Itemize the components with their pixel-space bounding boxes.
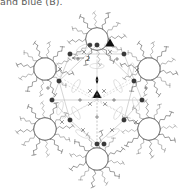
petal-n <box>68 11 127 67</box>
packing-diagram-canvas: 2 <box>0 0 193 195</box>
symmetry-symbol-group <box>92 39 114 99</box>
node-3 <box>122 52 127 57</box>
two-fold-axis-annotation: 2 <box>72 55 90 63</box>
two-fold-axis-label: 2 <box>86 55 90 63</box>
node-12 <box>88 43 92 47</box>
node-4 <box>132 79 137 84</box>
node-2 <box>95 43 100 48</box>
petal-nw <box>10 33 79 104</box>
node-5 <box>122 118 127 123</box>
petal-se <box>110 90 189 168</box>
plus-marker <box>115 57 119 61</box>
x-marker <box>134 120 138 124</box>
x-marker <box>102 89 106 93</box>
plus-marker <box>46 86 50 90</box>
plus-marker <box>76 57 80 61</box>
x-marker <box>88 102 92 106</box>
petal-sw <box>6 90 84 169</box>
petal-ne <box>113 34 184 103</box>
node-1 <box>68 52 73 57</box>
node-7 <box>68 118 73 123</box>
node-9 <box>140 98 145 103</box>
plus-marker <box>144 86 148 90</box>
x-marker <box>88 89 92 93</box>
node-6 <box>95 142 100 147</box>
node-11 <box>102 142 107 147</box>
node-8 <box>57 79 62 84</box>
node-10 <box>50 98 55 103</box>
plus-marker <box>112 98 116 102</box>
plus-marker <box>78 98 82 102</box>
x-marker <box>60 120 64 124</box>
three-fold-triangle-upper <box>105 39 114 47</box>
